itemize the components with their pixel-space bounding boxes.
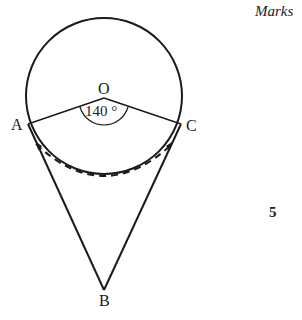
geometry-diagram <box>0 0 302 320</box>
point-label-a: A <box>11 117 23 133</box>
dashed-arc <box>36 144 172 176</box>
point-label-b: B <box>99 293 110 309</box>
angle-label: 140 ° <box>85 104 117 119</box>
point-label-c: C <box>186 118 197 134</box>
marks-header: Marks <box>255 3 293 20</box>
tangent-ab <box>28 124 104 290</box>
point-label-o: O <box>98 81 110 97</box>
marks-value: 5 <box>269 204 277 221</box>
